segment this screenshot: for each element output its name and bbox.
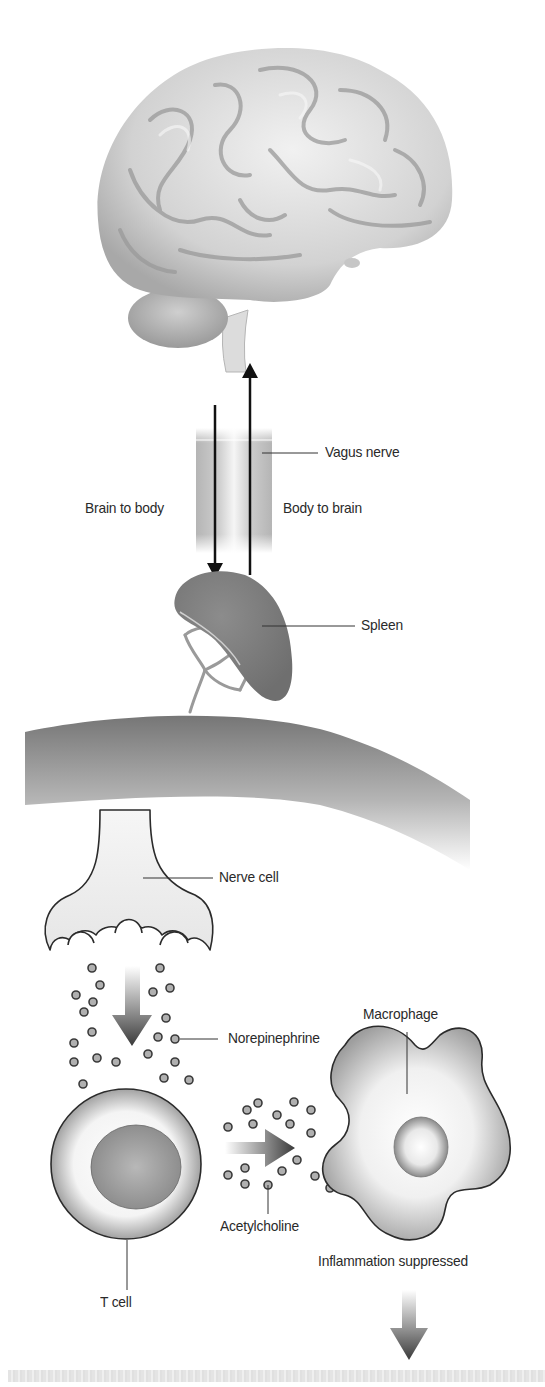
label-acetylcholine: Acetylcholine (220, 1217, 299, 1234)
spleen-tissue-surface (25, 716, 470, 870)
label-body-to-brain: Body to brain (283, 499, 362, 516)
right-arrow-tcell-to-macrophage (225, 1129, 295, 1167)
nerve-cell (45, 810, 213, 950)
brain-illustration (97, 48, 452, 372)
spleen-illustration (174, 571, 292, 712)
label-t-cell: T cell (100, 1293, 132, 1310)
vagus-nerve-diagram (0, 0, 545, 1387)
bottom-scan-strip (8, 1370, 545, 1382)
down-arrow-inflammation-suppressed (390, 1290, 428, 1360)
spleen (174, 571, 292, 701)
label-norepinephrine: Norepinephrine (228, 1029, 320, 1046)
macrophage (323, 1026, 511, 1239)
down-arrow-nerve-to-tcell (112, 966, 152, 1046)
label-inflammation-suppressed: Inflammation suppressed (318, 1252, 468, 1269)
vagus-nerve (196, 428, 272, 553)
label-brain-to-body: Brain to body (85, 499, 164, 516)
label-vagus-nerve: Vagus nerve (325, 443, 399, 460)
label-macrophage: Macrophage (363, 1005, 438, 1022)
label-spleen: Spleen (361, 616, 403, 633)
t-cell (51, 1089, 201, 1239)
label-nerve-cell: Nerve cell (219, 868, 279, 885)
